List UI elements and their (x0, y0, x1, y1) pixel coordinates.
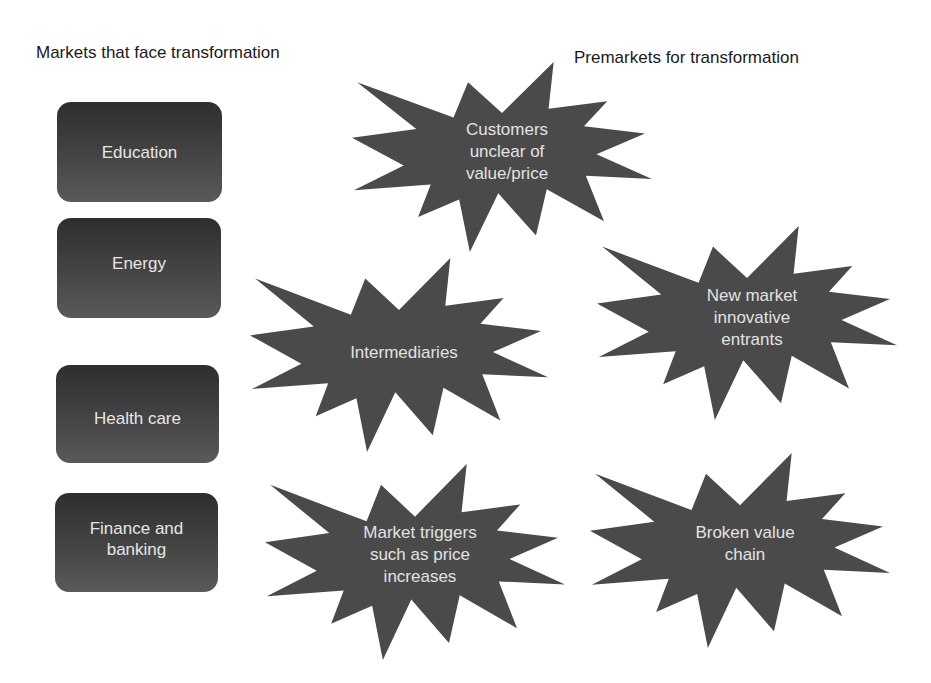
premarket-label: Intermediaries (250, 258, 548, 452)
premarket-label: New market innovative entrants (597, 226, 897, 420)
premarket-label: Market triggers such as price increases (265, 464, 565, 660)
premarket-burst-new-market: New market innovative entrants (597, 226, 897, 420)
premarket-burst-intermediaries: Intermediaries (250, 258, 548, 452)
market-label: Health care (94, 408, 181, 429)
market-label: Energy (112, 253, 166, 274)
market-box-finance-banking: Finance and banking (55, 493, 218, 592)
premarket-burst-market-triggers: Market triggers such as price increases (265, 464, 565, 660)
premarket-burst-customers: Customers unclear of value/price (352, 62, 652, 252)
premarket-burst-broken-value-chain: Broken value chain (590, 453, 890, 648)
market-label: Finance and banking (90, 518, 184, 560)
market-label: Education (102, 142, 178, 163)
left-column-heading: Markets that face transformation (36, 43, 280, 63)
premarket-label: Customers unclear of value/price (352, 62, 652, 252)
premarket-label: Broken value chain (590, 453, 890, 648)
market-box-education: Education (57, 102, 222, 202)
market-box-energy: Energy (57, 218, 221, 318)
market-box-health-care: Health care (56, 365, 219, 463)
